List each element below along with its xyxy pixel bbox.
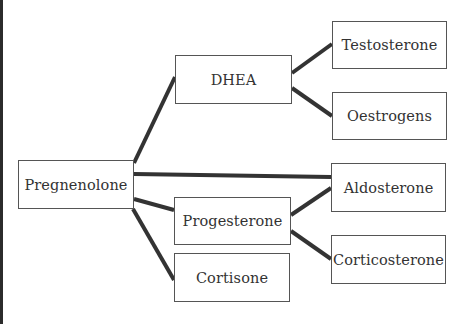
- node-label: Progesterone: [183, 213, 283, 229]
- node-pregnenolone: Pregnenolone: [18, 160, 134, 209]
- edge-pregnenolone-dhea: [134, 77, 175, 163]
- node-label: Oestrogens: [347, 108, 432, 124]
- node-progesterone: Progesterone: [174, 197, 291, 245]
- edge-progesterone-aldosterone: [291, 188, 331, 215]
- node-cortisone: Cortisone: [174, 253, 290, 302]
- node-aldosterone: Aldosterone: [331, 163, 446, 212]
- node-label: Aldosterone: [344, 180, 434, 196]
- edge-pregnenolone-cortisone: [133, 209, 174, 280]
- node-label: Cortisone: [196, 270, 268, 286]
- node-label: Corticosterone: [333, 252, 444, 268]
- edge-pregnenolone-progesterone: [134, 199, 174, 210]
- node-label: Pregnenolone: [24, 177, 127, 193]
- node-label: DHEA: [211, 72, 257, 88]
- node-oestrogens: Oestrogens: [332, 92, 447, 140]
- edge-pregnenolone-aldosterone: [134, 174, 331, 177]
- node-testosterone: Testosterone: [332, 21, 447, 69]
- edge-progesterone-corticosterone: [291, 231, 331, 259]
- node-dhea: DHEA: [175, 55, 292, 104]
- edge-dhea-testosterone: [292, 44, 332, 73]
- node-corticosterone: Corticosterone: [331, 235, 446, 284]
- node-label: Testosterone: [342, 37, 438, 53]
- edge-dhea-oestrogens: [292, 88, 332, 116]
